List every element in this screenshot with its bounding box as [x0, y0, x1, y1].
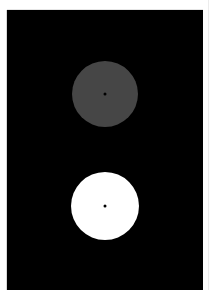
center-dot	[104, 205, 107, 208]
upper-gray-circle	[72, 61, 138, 127]
edge-line	[208, 0, 209, 290]
center-dot	[104, 93, 107, 96]
black-panel	[7, 10, 203, 290]
lower-white-circle	[71, 172, 139, 240]
